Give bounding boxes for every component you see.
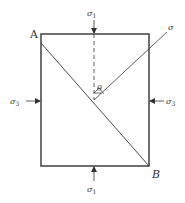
sigma1-bottom-label: σ1	[87, 185, 96, 195]
sigma3-right-label: σ3	[166, 97, 175, 107]
specimen-rectangle	[41, 34, 149, 166]
sigma1-top-label: σ1	[87, 9, 96, 19]
failure-plane-ab	[41, 43, 149, 166]
stress-diagram: A B σ1 σ1 σ3 σ3 σ θ	[0, 0, 185, 203]
normal-stress-line	[94, 32, 167, 100]
point-a-label: A	[29, 28, 39, 41]
point-b-label: B	[151, 168, 160, 181]
right-angle-marker	[94, 93, 101, 94]
sigma-normal-label: σ	[168, 23, 174, 32]
angle-theta-label: θ	[97, 84, 102, 93]
sigma3-left-label: σ3	[10, 97, 19, 107]
